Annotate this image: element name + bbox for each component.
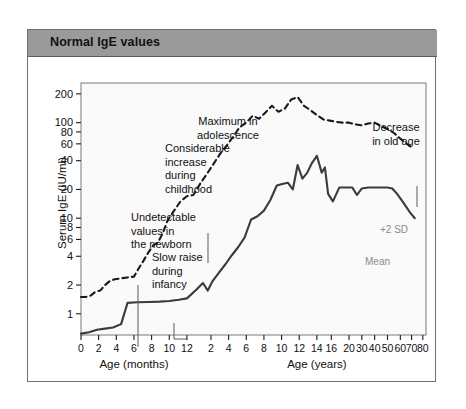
x-tick-label: 40 — [369, 342, 381, 354]
x-axis-ticks: 02468101224681012141620304050607080 — [78, 335, 429, 354]
x-tick-label: 10 — [276, 342, 288, 354]
annotation-text: the newborn — [131, 238, 192, 250]
annotation-text: childhood — [165, 183, 212, 195]
x-tick-label: 30 — [356, 342, 368, 354]
figure-title-bar: Normal IgE values — [28, 30, 437, 57]
y-tick-label: 2 — [67, 279, 73, 291]
axis-names: Age (months)Age (years) — [99, 358, 346, 370]
x-tick-label: 10 — [163, 342, 175, 354]
x-tick-label: 6 — [243, 342, 249, 354]
x-tick-label: 14 — [311, 342, 323, 354]
x-tick-label: 70 — [406, 342, 418, 354]
y-tick-label: 200 — [55, 88, 73, 100]
y-axis-ticks: 124681020406080100200 — [55, 88, 81, 320]
figure-panel: Normal IgE values Serum IgE (IU/ml) 1246… — [27, 29, 436, 382]
x-tick-label: 12 — [293, 342, 305, 354]
y-tick-label: 4 — [67, 250, 73, 262]
annotation-text: Slow raise — [152, 251, 203, 263]
x-axis-label-years: Age (years) — [287, 358, 347, 370]
x-tick-label: 16 — [325, 342, 337, 354]
x-tick-label: 60 — [394, 342, 406, 354]
y-tick-label: 60 — [61, 138, 73, 150]
annotation-text: Decrease — [372, 121, 419, 133]
x-tick-label: 20 — [343, 342, 355, 354]
y-tick-label: 20 — [61, 183, 73, 195]
x-axis-label-months: Age (months) — [99, 358, 168, 370]
x-tick-label: 2 — [208, 342, 214, 354]
x-tick-label: 80 — [417, 342, 429, 354]
annotation-text: adolescence — [197, 129, 259, 141]
annotation-text: during — [152, 265, 183, 277]
annotation-text: Considerable — [165, 142, 230, 154]
x-tick-label: 8 — [149, 342, 155, 354]
y-tick-label: 6 — [67, 233, 73, 245]
annotation-text: in old age — [372, 135, 420, 147]
series-label-mean: Mean — [365, 256, 390, 267]
series-label-2sd: +2 SD — [380, 224, 408, 235]
annotation-text: values in — [131, 225, 174, 237]
igE-line-chart: 124681020406080100200 024681012246810121… — [28, 57, 437, 382]
x-tick-label: 0 — [78, 342, 84, 354]
annotation-text: Undetectable — [131, 211, 196, 223]
x-tick-label: 4 — [226, 342, 232, 354]
x-tick-label: 2 — [96, 342, 102, 354]
annotation-text: infancy — [152, 278, 187, 290]
annotation-text: increase — [165, 156, 207, 168]
figure-title: Normal IgE values — [50, 35, 160, 49]
x-tick-label: 8 — [261, 342, 267, 354]
x-tick-label: 4 — [113, 342, 119, 354]
y-tick-label: 40 — [61, 154, 73, 166]
y-tick-label: 100 — [55, 116, 73, 128]
x-tick-label: 12 — [181, 342, 193, 354]
annotation-maximum-adolescence: Maximum inadolescence — [197, 115, 259, 141]
x-tick-label: 6 — [131, 342, 137, 354]
y-tick-label: 10 — [61, 212, 73, 224]
x-tick-label: 50 — [382, 342, 394, 354]
y-tick-label: 1 — [67, 308, 73, 320]
annotation-text: Maximum in — [198, 115, 257, 127]
annotation-text: during — [165, 169, 196, 181]
plot-container: Serum IgE (IU/ml) 124681020406080100200 … — [28, 57, 437, 382]
